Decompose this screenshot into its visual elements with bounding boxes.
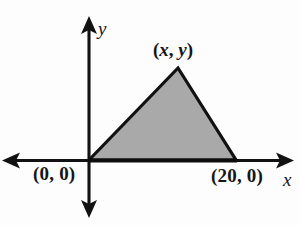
vertical-axis xyxy=(81,16,97,218)
apex-comma: , xyxy=(169,39,179,60)
origin-label: (0, 0) xyxy=(33,164,75,183)
apex-vertex-label: (x, y) xyxy=(153,40,193,59)
apex-x-variable: x xyxy=(159,39,169,60)
coordinate-plane-graphic xyxy=(0,0,300,225)
base-right-vertex-label: (20, 0) xyxy=(211,166,263,185)
apex-paren-close: ) xyxy=(187,39,193,60)
shaded-triangle xyxy=(89,68,236,160)
x-axis-label: x xyxy=(283,170,291,189)
apex-y-variable: y xyxy=(178,39,186,60)
y-axis-label: y xyxy=(98,19,106,38)
figure-canvas: (0, 0) (20, 0) (x, y) x y xyxy=(0,0,300,225)
